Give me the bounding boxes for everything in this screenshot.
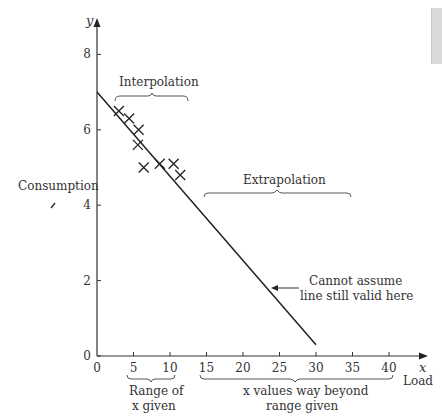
range-given-brace [127, 375, 175, 382]
x-axis-arrow-icon [419, 353, 428, 360]
regression-line [97, 92, 316, 345]
data-point-cross-icon [114, 106, 124, 116]
y-tick-label: 2 [83, 274, 91, 288]
x-axis-label: Load [403, 374, 433, 388]
x-tick-label: 0 [93, 361, 101, 375]
x-tick-label: 10 [162, 361, 177, 375]
interpolation-label: Interpolation [119, 75, 199, 89]
extrapolation-label: Extrapolation [243, 173, 326, 187]
data-point-cross-icon [169, 159, 179, 169]
interpolation-brace [115, 93, 188, 101]
x-tick-label: 35 [345, 361, 360, 375]
y-axis-label-pointer [51, 203, 55, 208]
y-axis-arrow-icon [94, 18, 101, 27]
x-tick-label: 20 [235, 361, 250, 375]
cannot-assume-label-1: Cannot assume [309, 274, 402, 288]
y-tick-label: 8 [83, 47, 91, 61]
y-tick-label: 4 [83, 198, 91, 212]
range-given-label-1: Range of [129, 384, 185, 398]
data-point-cross-icon [175, 170, 185, 180]
y-tick-label: 0 [83, 349, 91, 363]
y-axis-label: Consumption [18, 179, 99, 193]
y-axis-symbol: y [85, 13, 94, 28]
data-point-cross-icon [134, 125, 144, 135]
x-tick-label: 30 [308, 361, 323, 375]
scrollbar[interactable] [431, 8, 442, 64]
cannot-assume-label-2: line still valid here [300, 289, 413, 303]
extrapolation-brace [204, 190, 351, 197]
data-point-cross-icon [139, 163, 149, 173]
beyond-range-brace [200, 375, 393, 382]
data-point-cross-icon [155, 159, 165, 169]
range-given-label-2: x given [132, 399, 176, 413]
x-axis-symbol: x [419, 360, 427, 375]
data-points [114, 106, 185, 180]
y-tick-label: 6 [83, 123, 91, 137]
x-tick-label: 25 [272, 361, 287, 375]
beyond-range-label-2: range given [266, 399, 339, 413]
x-tick-label: 40 [381, 361, 396, 375]
data-point-cross-icon [124, 113, 134, 123]
arrow-left-icon [271, 285, 278, 291]
x-tick-label: 5 [130, 361, 138, 375]
beyond-range-label-1: x values way beyond [243, 384, 369, 398]
x-tick-label: 15 [199, 361, 214, 375]
data-point-cross-icon [133, 140, 143, 150]
